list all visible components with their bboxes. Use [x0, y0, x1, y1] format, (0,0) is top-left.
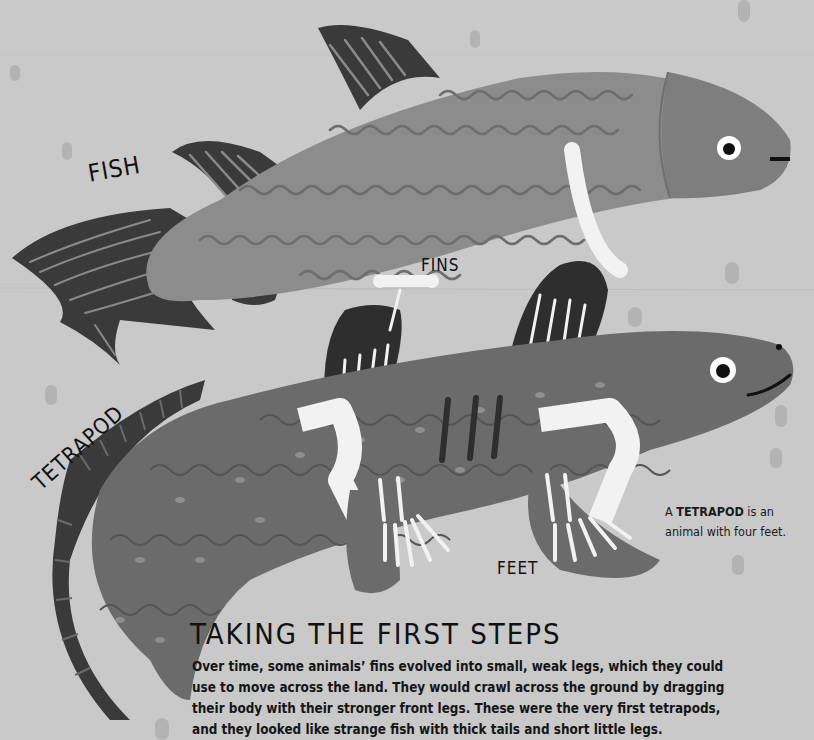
section-body: Over time, some animals’ fins evolved in…	[192, 656, 792, 740]
feet-label: FEET	[497, 558, 538, 578]
body-line: and they looked like strange fish with t…	[192, 719, 792, 740]
definition-prefix: A	[665, 504, 676, 519]
body-line: Over time, some animals’ fins evolved in…	[192, 656, 792, 677]
section-heading: TAKING THE FIRST STEPS	[190, 617, 562, 651]
fins-label: FINS	[421, 255, 459, 275]
book-page: FISH FINS TETRAPOD FEET A TETRAPOD is an…	[0, 0, 814, 740]
definition-term: TETRAPOD	[676, 504, 744, 519]
body-line: use to move across the land. They would …	[192, 677, 792, 698]
tetrapod-definition: A TETRAPOD is an animal with four feet.	[665, 502, 814, 542]
body-line: their body with their stronger front leg…	[192, 698, 792, 719]
